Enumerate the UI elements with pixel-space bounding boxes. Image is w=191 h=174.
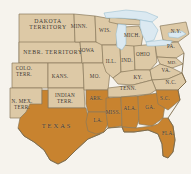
region-shape-ohio[interactable]	[134, 44, 157, 70]
region-shape-mississippi[interactable]	[106, 97, 122, 128]
region-shape-minnesota[interactable]	[74, 14, 96, 42]
region-shape-indian-territory[interactable]	[48, 88, 85, 108]
confederate-regions	[18, 80, 180, 164]
historical-us-map: DAKOTA TERRITORY NEBR. TERRITORY COLO. T…	[0, 0, 191, 174]
map-canvas	[0, 0, 191, 174]
region-shape-alabama[interactable]	[121, 96, 139, 128]
lake-michigan-shape	[116, 24, 126, 50]
region-shape-nebraska-territory[interactable]	[19, 42, 82, 63]
region-shape-colorado-territory[interactable]	[12, 63, 48, 88]
region-shape-iowa[interactable]	[80, 42, 103, 63]
region-shape-kansas[interactable]	[48, 63, 84, 88]
